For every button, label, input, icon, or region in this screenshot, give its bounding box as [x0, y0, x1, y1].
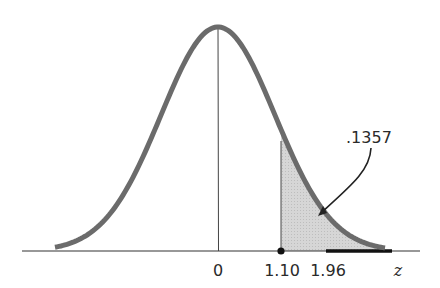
x-axis-variable: z — [393, 261, 403, 280]
chart-svg: .1357 0 1.10 1.96 z — [0, 0, 440, 288]
tick-label-0: 0 — [213, 261, 223, 280]
area-label: .1357 — [346, 128, 392, 147]
tick-label-1-10: 1.10 — [264, 261, 300, 280]
cutoff-point — [277, 247, 284, 254]
normal-curve — [55, 27, 385, 248]
tick-label-1-96: 1.96 — [310, 261, 346, 280]
shaded-tail-area — [281, 129, 385, 251]
normal-distribution-figure: .1357 0 1.10 1.96 z — [0, 0, 440, 288]
annotation-arrow — [322, 148, 371, 212]
mean-line — [218, 27, 219, 251]
